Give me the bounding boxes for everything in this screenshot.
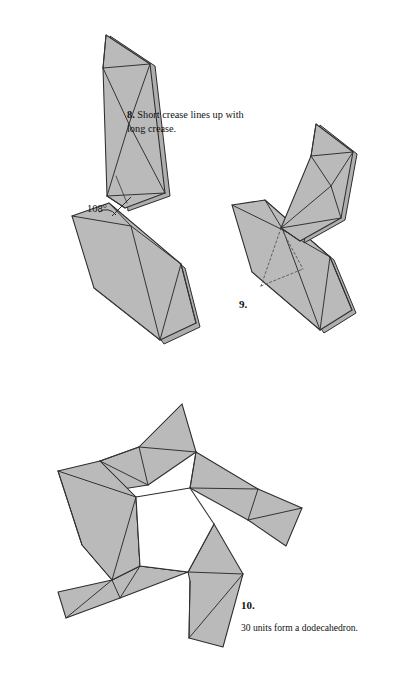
- caption-step-9: 9.: [239, 297, 247, 312]
- origami-diagram-svg: .paper { fill: #bababa; stroke: #2d2d2d;…: [0, 0, 404, 688]
- paper-front-layer: [281, 124, 353, 241]
- step-number-10: 10.: [241, 599, 255, 611]
- caption-text-8: Short crease lines up with long crease.: [127, 109, 244, 134]
- figure-step-8: [72, 35, 200, 344]
- caption-step-10-number: 10.: [241, 598, 255, 613]
- figure-step-9: [232, 124, 357, 333]
- caption-step-10-text: 30 units form a dodecahedron.: [241, 622, 401, 635]
- figure-page: .paper { fill: #bababa; stroke: #2d2d2d;…: [0, 0, 404, 688]
- caption-step-8: 8. Short crease lines up with long creas…: [127, 108, 255, 135]
- step-number-9: 9.: [239, 298, 247, 310]
- angle-label-108: 108°: [87, 203, 107, 214]
- step-number-8: 8.: [127, 109, 135, 120]
- step8-lower-unit: [72, 203, 200, 344]
- step9-upper-unit: [281, 124, 357, 243]
- figure-step-10: [58, 404, 302, 647]
